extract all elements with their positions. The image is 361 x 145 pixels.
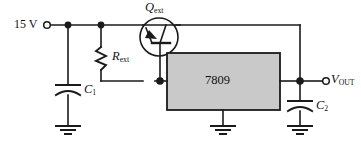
transistor-label: Qext <box>145 1 164 15</box>
ground-c2 <box>288 126 312 134</box>
capacitor-c2-label-sub: 2 <box>324 104 328 113</box>
junction-dot-regulator-input <box>156 77 164 85</box>
resistor-label-sub: ext <box>120 55 129 64</box>
circuit-diagram: 15 V Qext Rext C1 C2 7809 VOUT <box>0 0 361 145</box>
output-voltage-label-base: V <box>331 72 339 86</box>
ground-c1 <box>56 126 80 134</box>
terminal-input[interactable] <box>44 22 51 29</box>
transistor-label-base: Q <box>145 0 154 14</box>
resistor-zigzag <box>96 47 106 70</box>
regulator-part-number: 7809 <box>205 74 230 87</box>
schematic-canvas <box>0 0 361 145</box>
output-voltage-label: VOUT <box>331 73 355 87</box>
junction-dot-supply-rext <box>98 22 105 29</box>
resistor-label: Rext <box>112 50 129 64</box>
resistor-label-base: R <box>112 49 120 63</box>
capacitor-c2-label: C2 <box>316 99 328 113</box>
terminal-output[interactable] <box>323 78 330 85</box>
output-voltage-label-sub: OUT <box>339 78 355 87</box>
junction-dot-output <box>296 77 304 85</box>
ground-regulator <box>211 126 235 134</box>
capacitor-c1-label-sub: 1 <box>92 88 96 97</box>
capacitor-c1-label: C1 <box>84 83 96 97</box>
supply-voltage-label: 15 V <box>14 18 37 30</box>
junction-dot-supply-c1 <box>65 22 72 29</box>
transistor-label-sub: ext <box>154 6 163 15</box>
